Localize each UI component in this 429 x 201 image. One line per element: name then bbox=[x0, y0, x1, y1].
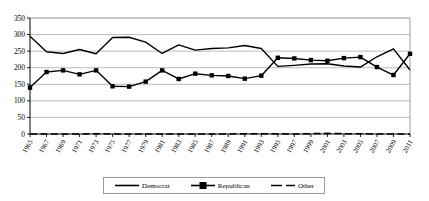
x-axis-tick-label: 1973 bbox=[87, 138, 101, 155]
series-marker-republican bbox=[177, 77, 181, 81]
series-marker-republican bbox=[94, 68, 98, 72]
series-marker-republican bbox=[210, 73, 214, 77]
legend-label-democrat: Democrat bbox=[142, 182, 170, 190]
series-marker-republican bbox=[160, 68, 164, 72]
legend-item-democrat: Democrat bbox=[114, 181, 170, 190]
x-axis-tick-label: 1971 bbox=[70, 138, 84, 155]
legend-item-republican: Republican bbox=[190, 181, 250, 190]
series-marker-republican bbox=[309, 58, 313, 62]
series-line-democrat bbox=[30, 36, 410, 70]
y-axis-tick-label: 50 bbox=[18, 113, 26, 122]
legend-swatch-republican-line-square-icon bbox=[190, 181, 216, 190]
x-axis-tick-label: 2005 bbox=[351, 138, 365, 155]
series-marker-republican bbox=[375, 65, 379, 69]
x-axis-tick-label: 1995 bbox=[269, 138, 283, 155]
series-marker-republican bbox=[28, 85, 32, 89]
x-axis-tick-label: 1989 bbox=[219, 138, 233, 155]
x-axis-tick-label: 2009 bbox=[384, 138, 398, 155]
chart-legend: Democrat Republican Other bbox=[103, 177, 325, 194]
x-axis-tick-label: 1997 bbox=[285, 138, 299, 155]
x-axis-tick-label: 1977 bbox=[120, 138, 134, 155]
x-axis-tick-label: 1967 bbox=[37, 138, 51, 155]
series-marker-republican bbox=[358, 55, 362, 59]
series-marker-republican bbox=[243, 76, 247, 80]
y-axis-tick-label: 250 bbox=[14, 47, 25, 56]
x-axis-tick-label: 2011 bbox=[401, 138, 415, 154]
series-marker-republican bbox=[391, 73, 395, 77]
series-marker-republican bbox=[143, 79, 147, 83]
x-axis-tick-labels: 1965196719691971197319751977197919811983… bbox=[21, 138, 415, 155]
series-marker-republican bbox=[77, 72, 81, 76]
series-marker-republican bbox=[127, 84, 131, 88]
x-axis-tick-label: 1979 bbox=[136, 138, 150, 155]
series-marker-republican bbox=[276, 56, 280, 60]
chart-plot-area: 050100150200250300350 196519671969197119… bbox=[0, 0, 429, 201]
series-marker-republican bbox=[342, 56, 346, 60]
y-axis-tick-labels: 050100150200250300350 bbox=[14, 14, 25, 139]
x-axis-tick-label: 2001 bbox=[318, 138, 332, 155]
x-axis-tick-label: 1985 bbox=[186, 138, 200, 155]
series-marker-republican bbox=[110, 84, 114, 88]
x-axis-tick-label: 2003 bbox=[335, 138, 349, 155]
series-line-republican bbox=[30, 54, 410, 88]
y-axis-tick-label: 0 bbox=[21, 130, 25, 139]
legend-swatch-democrat-line-icon bbox=[114, 181, 140, 190]
series-marker-republican bbox=[193, 71, 197, 75]
y-axis-tick-label: 350 bbox=[14, 14, 25, 23]
x-axis-tick-label: 1981 bbox=[153, 138, 167, 155]
series-marker-republican bbox=[44, 70, 48, 74]
y-axis-tick-label: 200 bbox=[14, 63, 25, 72]
series-marker-republican bbox=[259, 73, 263, 77]
x-axis-tick-label: 1969 bbox=[54, 138, 68, 155]
x-axis-tick-label: 1999 bbox=[302, 138, 316, 155]
series-marker-republican bbox=[325, 59, 329, 63]
x-axis-tick-label: 1965 bbox=[21, 138, 35, 155]
legend-label-other: Other bbox=[298, 182, 314, 190]
series-marker-republican bbox=[408, 52, 412, 56]
gridlines bbox=[30, 18, 410, 117]
legend-item-other: Other bbox=[270, 181, 314, 190]
x-axis-tick-label: 1991 bbox=[236, 138, 250, 155]
x-axis-tick-label: 1993 bbox=[252, 138, 266, 155]
legend-label-republican: Republican bbox=[218, 182, 250, 190]
series-marker-republican bbox=[226, 74, 230, 78]
line-chart: 050100150200250300350 196519671969197119… bbox=[0, 0, 429, 201]
legend-swatch-other-dashed-icon bbox=[270, 181, 296, 190]
y-axis-tick-label: 150 bbox=[14, 80, 25, 89]
y-axis-tick-label: 300 bbox=[14, 30, 25, 39]
series-marker-republican bbox=[61, 68, 65, 72]
x-axis-tick-label: 1987 bbox=[203, 138, 217, 155]
y-axis-tick-label: 100 bbox=[14, 96, 25, 105]
x-axis-tick-label: 2007 bbox=[368, 138, 382, 155]
x-axis-tick-label: 1983 bbox=[169, 138, 183, 155]
series-marker-republican bbox=[292, 56, 296, 60]
x-axis-tick-label: 1975 bbox=[103, 138, 117, 155]
